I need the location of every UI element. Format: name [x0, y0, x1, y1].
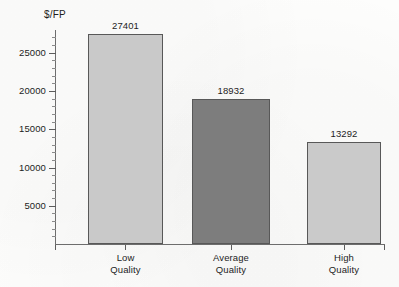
x-axis-tick	[55, 245, 56, 250]
y-axis-tick-label: 10000	[0, 162, 46, 173]
y-axis-minor-tick	[52, 190, 56, 191]
y-axis-minor-tick	[52, 99, 56, 100]
bar-category-label-line: Quality	[174, 264, 288, 276]
x-axis-tick	[384, 245, 385, 250]
y-axis-minor-tick	[52, 221, 56, 222]
x-axis-tick	[125, 245, 126, 250]
y-axis-minor-tick	[52, 76, 56, 77]
bar-category-label-line: Quality	[289, 264, 399, 276]
bar	[88, 34, 163, 244]
y-axis-major-tick	[49, 129, 56, 130]
y-axis-tick-label: 15000	[0, 123, 46, 134]
x-axis-tick	[344, 245, 345, 250]
bar-value-label: 13292	[307, 128, 381, 139]
bar-chart-figure: $/FP 500010000150002000025000 27401LowQu…	[0, 0, 399, 287]
bar-value-label: 18932	[192, 85, 270, 96]
y-axis-minor-tick	[52, 114, 56, 115]
y-axis-tick-label: 20000	[0, 85, 46, 96]
bar-category-label-line: High	[289, 252, 399, 264]
y-axis-minor-tick	[52, 60, 56, 61]
y-axis-minor-tick	[52, 183, 56, 184]
y-axis-minor-tick	[52, 229, 56, 230]
y-axis-minor-tick	[52, 213, 56, 214]
bar	[192, 99, 270, 244]
y-axis-minor-tick	[52, 45, 56, 46]
y-axis-major-tick	[49, 91, 56, 92]
x-axis-tick	[231, 245, 232, 250]
bar-category-label: LowQuality	[70, 252, 181, 275]
y-axis-minor-tick	[52, 236, 56, 237]
y-axis-minor-tick	[52, 37, 56, 38]
bar-category-label-line: Average	[174, 252, 288, 264]
y-axis-minor-tick	[52, 152, 56, 153]
y-axis-minor-tick	[52, 160, 56, 161]
y-axis-title: $/FP	[44, 9, 66, 20]
y-axis-tick-label: 5000	[0, 200, 46, 211]
y-axis-major-tick	[49, 53, 56, 54]
bar-category-label: AverageQuality	[174, 252, 288, 275]
y-axis-minor-tick	[52, 137, 56, 138]
y-axis-minor-tick	[52, 175, 56, 176]
y-axis-minor-tick	[52, 68, 56, 69]
bar-value-label: 27401	[88, 20, 163, 31]
bar-category-label-line: Quality	[70, 264, 181, 276]
bar-category-label: HighQuality	[289, 252, 399, 275]
y-axis-minor-tick	[52, 198, 56, 199]
y-axis-minor-tick	[52, 145, 56, 146]
plot-area: $/FP 500010000150002000025000 27401LowQu…	[0, 0, 399, 287]
y-axis-major-tick	[49, 206, 56, 207]
y-axis-tick-label: 25000	[0, 47, 46, 58]
bar	[307, 142, 381, 244]
y-axis-minor-tick	[52, 122, 56, 123]
x-axis-line	[55, 244, 385, 245]
bar-category-label-line: Low	[70, 252, 181, 264]
y-axis-minor-tick	[52, 83, 56, 84]
y-axis-minor-tick	[52, 106, 56, 107]
y-axis-major-tick	[49, 168, 56, 169]
